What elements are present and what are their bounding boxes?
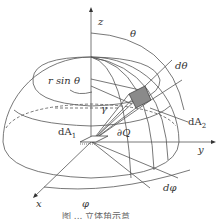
- figure-caption: 图 ... 立体角示意: [62, 212, 158, 219]
- d-phi-label: dφ: [163, 183, 176, 193]
- y-arrow: [211, 140, 216, 144]
- dQ-label: ∂Q: [117, 128, 130, 138]
- dA1-plate: [80, 136, 108, 142]
- x-axis: [35, 142, 91, 196]
- y-label: y: [198, 145, 204, 155]
- z-arrow: [89, 7, 93, 12]
- dA2-label: dA2: [188, 117, 206, 130]
- theta-label: θ: [130, 29, 136, 39]
- gamma-label: γ: [101, 104, 107, 114]
- phi-label: φ: [82, 199, 89, 209]
- x-label: x: [36, 199, 42, 209]
- r-sin-theta-label: r sin θ: [48, 76, 80, 86]
- z-label: z: [98, 17, 103, 27]
- hemisphere-diagram: [0, 0, 224, 219]
- d-theta-label: dθ: [175, 61, 187, 71]
- dA1-label: dA1: [58, 127, 76, 140]
